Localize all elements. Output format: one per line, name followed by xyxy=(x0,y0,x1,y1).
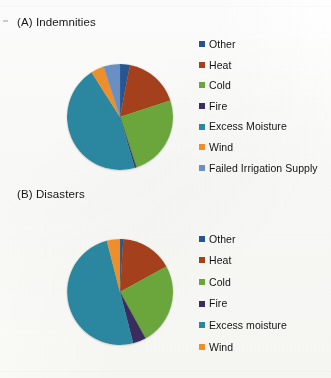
legend-item[interactable]: Heat xyxy=(199,55,318,76)
legend-label: Wind xyxy=(209,342,233,353)
legend-swatch-icon xyxy=(199,257,205,263)
chart-panel-indemnities: (A) Indemnities Other Heat Cold Fire xyxy=(0,0,331,190)
legend-item[interactable]: Fire xyxy=(199,293,287,315)
legend-label: Fire xyxy=(209,298,227,309)
panel-title-b: (B) Disasters xyxy=(17,188,85,200)
legend-label: Fire xyxy=(209,101,227,112)
legend-label: Cold xyxy=(209,277,231,288)
pie-chart-indemnities xyxy=(67,64,173,170)
pie-a-canvas xyxy=(67,64,173,170)
legend-swatch-icon xyxy=(199,144,205,150)
page-corner-mark xyxy=(3,20,8,22)
legend-swatch-icon xyxy=(199,344,205,350)
legend-indemnities: Other Heat Cold Fire Excess Moisture Win… xyxy=(199,34,318,178)
legend-swatch-icon xyxy=(199,62,205,68)
legend-item[interactable]: Wind xyxy=(199,336,287,358)
legend-swatch-icon xyxy=(199,322,205,328)
pie-a-slices xyxy=(67,64,173,170)
legend-item[interactable]: Other xyxy=(199,34,318,55)
legend-item[interactable]: Other xyxy=(199,228,287,250)
legend-label: Excess Moisture xyxy=(209,121,287,132)
legend-swatch-icon xyxy=(199,301,205,307)
legend-label: Cold xyxy=(209,80,231,91)
pie-b-canvas xyxy=(67,239,173,345)
pie-chart-disasters xyxy=(67,239,173,345)
panel-title-a: (A) Indemnities xyxy=(17,16,96,28)
pie-b-slices xyxy=(67,239,173,345)
legend-swatch-icon xyxy=(199,124,205,130)
legend-item[interactable]: Cold xyxy=(199,271,287,293)
legend-swatch-icon xyxy=(199,82,205,88)
figure-page: (A) Indemnities Other Heat Cold Fire xyxy=(0,0,331,378)
legend-swatch-icon xyxy=(199,279,205,285)
legend-swatch-icon xyxy=(199,165,205,171)
legend-swatch-icon xyxy=(199,236,205,242)
legend-label: Heat xyxy=(209,255,231,266)
legend-label: Heat xyxy=(209,60,231,71)
legend-label: Other xyxy=(209,39,236,50)
legend-swatch-icon xyxy=(199,41,205,47)
legend-item[interactable]: Fire xyxy=(199,96,318,117)
legend-item[interactable]: Heat xyxy=(199,250,287,272)
legend-item[interactable]: Wind xyxy=(199,137,318,158)
legend-swatch-icon xyxy=(199,103,205,109)
legend-label: Wind xyxy=(209,142,233,153)
legend-label: Excess moisture xyxy=(209,320,287,331)
legend-label: Other xyxy=(209,234,236,245)
legend-item[interactable]: Cold xyxy=(199,75,318,96)
legend-item[interactable]: Excess moisture xyxy=(199,314,287,336)
chart-panel-disasters: (B) Disasters Other Heat Cold Fire xyxy=(0,186,331,378)
legend-item[interactable]: Failed Irrigation Supply xyxy=(199,158,318,179)
legend-disasters: Other Heat Cold Fire Excess moisture Win… xyxy=(199,228,287,358)
legend-label: Failed Irrigation Supply xyxy=(209,163,318,174)
legend-item[interactable]: Excess Moisture xyxy=(199,116,318,137)
